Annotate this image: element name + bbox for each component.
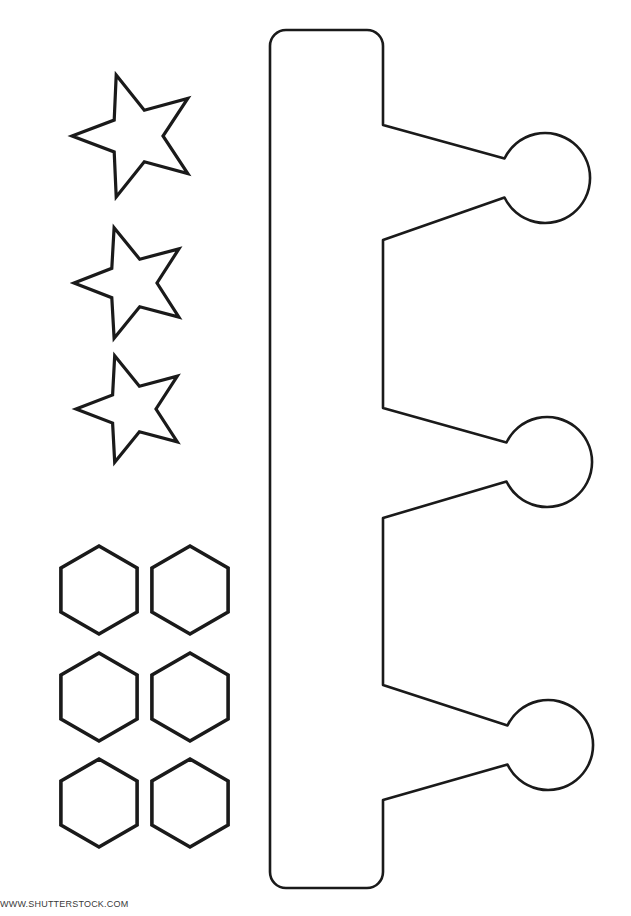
hexagon-4[interactable] [152,653,228,741]
star-1[interactable] [72,75,188,197]
hexagon-3[interactable] [61,653,137,741]
watermark-caption: WWW.SHUTTERSTOCK.COM [0,899,128,909]
hexagon-1[interactable] [61,546,137,634]
crown-band-group [270,30,593,888]
template-canvas [0,0,631,916]
hexagon-2[interactable] [152,546,228,634]
star-2[interactable] [74,228,179,338]
crown-band-with-ornaments[interactable] [270,30,593,888]
star-3[interactable] [76,356,177,463]
hexagon-group [61,546,228,847]
star-group [72,75,188,462]
hexagon-5[interactable] [61,759,137,847]
hexagon-6[interactable] [152,759,228,847]
template-sheet [0,0,631,916]
